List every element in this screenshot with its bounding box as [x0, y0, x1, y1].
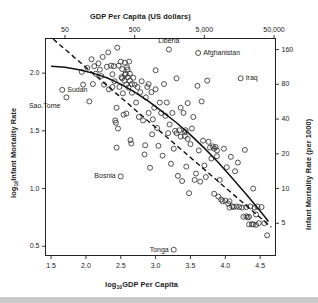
data-point [265, 233, 270, 238]
tick-label: 2.0 [30, 69, 40, 76]
data-point [96, 61, 101, 66]
tick-label: 1.5 [30, 127, 40, 134]
data-point [128, 138, 133, 143]
data-point [178, 105, 183, 110]
point-annotation-tonga: Tonga [150, 246, 169, 253]
data-point [251, 186, 256, 191]
data-point [168, 161, 173, 166]
data-point [153, 87, 158, 92]
data-point [60, 87, 65, 92]
data-point [166, 131, 171, 136]
data-point [170, 110, 175, 115]
point-annotation-sudan: Sudan [67, 86, 87, 93]
tick-label: 4.0 [220, 262, 230, 269]
tick-label: 50,000 [263, 26, 284, 33]
data-point [146, 110, 151, 115]
data-point [187, 191, 192, 196]
bottom-bar [0, 297, 318, 303]
data-point [156, 143, 161, 148]
tick-label: 4.5 [255, 262, 265, 269]
data-point [242, 147, 247, 152]
data-point [90, 82, 95, 87]
data-point [100, 54, 105, 59]
data-point [139, 79, 144, 84]
data-point [157, 100, 162, 105]
data-point [181, 110, 186, 115]
data-point [228, 154, 233, 159]
data-point [143, 143, 148, 148]
data-point [167, 122, 172, 127]
data-point [161, 82, 166, 87]
data-point [175, 173, 180, 178]
data-point [153, 68, 158, 73]
tick-label: 3.5 [186, 262, 196, 269]
data-point [205, 78, 210, 83]
fit-lines-layer [51, 39, 271, 227]
data-point [118, 174, 123, 179]
figure-container: GDP Per Capita (US dollars) log10Infant … [0, 0, 318, 303]
data-point [216, 194, 221, 199]
data-point [120, 91, 125, 96]
tick-label: 1.5 [46, 262, 56, 269]
tick-label: 40 [282, 115, 290, 122]
data-point [196, 148, 201, 153]
data-point [206, 139, 211, 144]
data-point [97, 67, 102, 72]
tick-label: 10 [282, 185, 290, 192]
data-point [203, 175, 208, 180]
data-point [171, 146, 176, 151]
point-annotation-afghanistan: Afghanistan [203, 49, 240, 56]
tick-label: 80 [282, 80, 290, 87]
data-point [195, 83, 200, 88]
tick-label: 160 [282, 46, 294, 53]
data-point [114, 145, 119, 150]
data-point [106, 50, 111, 55]
data-point [188, 142, 193, 147]
point-annotation-liberia: Liberia [158, 37, 179, 44]
data-point [214, 154, 219, 159]
tick-label: 2.5 [116, 262, 126, 269]
data-point [192, 177, 197, 182]
tick-label: 5 [282, 219, 286, 226]
data-point [233, 169, 238, 174]
point-annotation-iraq: Iraq [246, 74, 258, 81]
data-point [89, 57, 94, 62]
data-point [114, 105, 119, 110]
data-point [87, 99, 92, 104]
data-point [185, 136, 190, 141]
tick-label: 500 [129, 26, 141, 33]
data-point [189, 126, 194, 131]
data-point [142, 152, 147, 157]
data-point [117, 84, 122, 89]
data-point [110, 72, 115, 77]
data-point [134, 100, 139, 105]
data-point [160, 153, 165, 158]
data-point [171, 247, 176, 252]
data-point [196, 50, 201, 55]
data-point [148, 165, 153, 170]
scatter-plot-canvas [0, 0, 318, 303]
data-point [221, 146, 226, 151]
data-point [166, 47, 171, 52]
data-points-layer [60, 45, 270, 252]
data-point [141, 118, 146, 123]
data-point [198, 179, 203, 184]
tick-label: 1.0 [30, 185, 40, 192]
data-point [115, 126, 120, 131]
data-point [164, 100, 169, 105]
tick-label: 5,000 [196, 26, 214, 33]
data-point [185, 101, 190, 106]
data-point [201, 138, 206, 143]
tick-label: 0.5 [30, 242, 40, 249]
data-point [64, 95, 69, 100]
data-point [150, 132, 155, 137]
data-point [180, 179, 185, 184]
data-point [199, 99, 204, 104]
linear-fit [53, 39, 271, 227]
data-point [194, 171, 199, 176]
tick-label: 20 [282, 150, 290, 157]
data-point [238, 76, 243, 81]
point-annotation-sao-tome: Sao.Tome [29, 102, 61, 109]
data-point [150, 117, 155, 122]
tick-label: 3.0 [151, 262, 161, 269]
